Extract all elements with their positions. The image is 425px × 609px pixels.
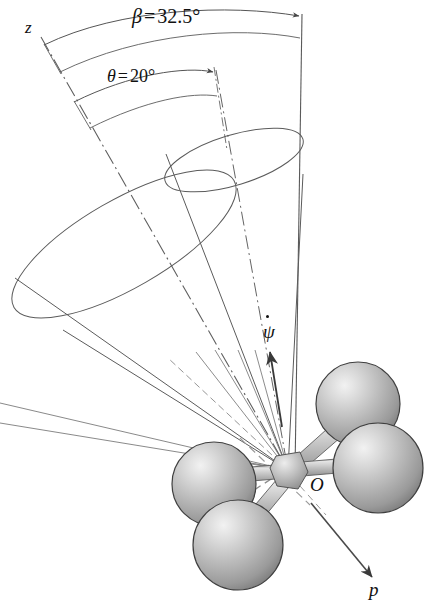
vertical-axis-line	[295, 14, 302, 472]
z-axis-dashdot-line	[41, 37, 288, 470]
figure-canvas	[0, 0, 425, 609]
beta-value: 32.5	[157, 5, 192, 27]
theta-arc-lower-edge	[90, 95, 217, 128]
rotor-sphere-lower	[193, 500, 283, 590]
psi-overdot-icon	[266, 315, 269, 318]
outer-space-cone	[0, 142, 288, 470]
psi-dot-arrow	[270, 352, 282, 427]
beta-symbol: β	[132, 5, 142, 27]
p-spin-axis-label: p	[369, 580, 379, 599]
theta-tick-dashdot	[214, 67, 227, 150]
beta-arc-lower-edge	[60, 33, 300, 72]
beta-equals: =	[142, 5, 157, 27]
beta-angle-label: β=32.5°	[132, 6, 200, 26]
theta-value: 20	[130, 66, 148, 86]
p-spin-arrow	[311, 503, 372, 577]
theta-angle-label: θ=20°	[107, 67, 155, 85]
psi-symbol: ψ	[263, 321, 275, 342]
beta-arc-start-tick	[44, 44, 91, 130]
rotor-sphere-right	[333, 423, 423, 513]
psi-symbol-stack: ψ	[263, 322, 275, 341]
theta-equals: =	[116, 66, 130, 86]
origin-label: O	[310, 475, 324, 494]
gyroscope-figure: β=32.5° θ=20° z ψ O p	[0, 0, 425, 609]
theta-degree-icon: °	[148, 66, 155, 86]
rotor-hub	[270, 452, 308, 489]
beta-degree-icon: °	[192, 5, 200, 27]
psi-dot-label: ψ	[263, 322, 275, 341]
z-axis-label: z	[25, 19, 32, 36]
theta-symbol: θ	[107, 66, 116, 86]
